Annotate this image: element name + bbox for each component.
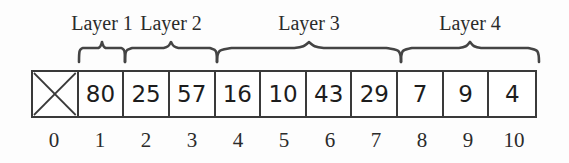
layer-brace-2	[125, 42, 217, 62]
array-cell-8: 7	[398, 72, 444, 116]
index-label-5: 5	[261, 124, 307, 156]
layer-brace-4	[401, 42, 539, 62]
array-cell-9: 9	[444, 72, 490, 116]
index-label-4: 4	[215, 124, 261, 156]
index-label-8: 8	[399, 124, 445, 156]
array-cell-5: 10	[261, 72, 307, 116]
array-container: 80 25 57 16 10 43 29 7 9 4	[31, 70, 537, 118]
index-label-10: 10	[491, 124, 537, 156]
index-label-7: 7	[353, 124, 399, 156]
layer-label-4: Layer 4	[410, 10, 530, 36]
array-cell-10: 4	[489, 72, 535, 116]
index-label-2: 2	[123, 124, 169, 156]
array-layer-figure: Layer 1 Layer 2 Layer 3 Layer 4	[0, 0, 569, 163]
array-cell-6: 43	[307, 72, 353, 116]
layer-label-3: Layer 3	[249, 10, 369, 36]
array-cell-4: 16	[216, 72, 262, 116]
index-label-9: 9	[445, 124, 491, 156]
cross-out-icon	[33, 72, 77, 116]
array-cell-0	[33, 72, 79, 116]
array-cell-3: 57	[170, 72, 216, 116]
index-label-0: 0	[31, 124, 77, 156]
index-row: 0 1 2 3 4 5 6 7 8 9 10	[31, 124, 537, 156]
array-cell-1: 80	[79, 72, 125, 116]
array-cell-2: 25	[124, 72, 170, 116]
array-cell-7: 29	[352, 72, 398, 116]
layer-brace-1	[79, 42, 125, 62]
layer-brace-3	[217, 42, 401, 62]
index-label-6: 6	[307, 124, 353, 156]
index-label-3: 3	[169, 124, 215, 156]
layer-label-2: Layer 2	[111, 10, 231, 36]
index-label-1: 1	[77, 124, 123, 156]
